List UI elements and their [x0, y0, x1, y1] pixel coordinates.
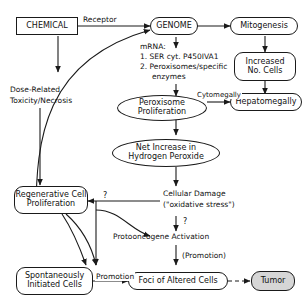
node-chemical-label: CHEMICAL — [26, 22, 67, 31]
node-foci-of-altered-cells[interactable]: Foci of Altered Cells — [128, 272, 228, 290]
node-regenerative-cell-proliferation[interactable]: Regenerative Cell Proliferation — [14, 186, 88, 214]
edge-label-cytomegally: Cytomegally — [196, 91, 242, 99]
mrna-item-2-continuation: enzymes — [152, 73, 186, 82]
node-spontaneous-line2: Initiated Cells — [27, 281, 82, 290]
dose-related-line2: Toxicity/Necrosis — [10, 97, 72, 106]
node-hepatomegally-label: Hepatomegally — [236, 98, 297, 107]
node-net-increase-line2: Hydrogen Peroxide — [128, 153, 204, 162]
node-spontaneously-initiated-cells[interactable]: Spontaneously Initiated Cells — [16, 267, 93, 295]
node-regenerative-line2: Proliferation — [27, 200, 75, 209]
promotion-parenthetical-text: (Promotion) — [182, 252, 226, 261]
node-genome-label: GENOME — [156, 22, 192, 31]
node-mitogenesis[interactable]: Mitogenesis — [230, 17, 298, 35]
edge-label-question-damage-to-regenerative: ? — [102, 191, 108, 200]
node-peroxisome-proliferation-line2: Proliferation — [138, 108, 186, 117]
node-increased-no-cells-line2: No. Cells — [248, 67, 283, 76]
node-tumor[interactable]: Tumor — [251, 271, 295, 291]
node-increased-no-cells[interactable]: Increased No. Cells — [234, 52, 296, 81]
edge-label-promotion: Promotion — [95, 272, 135, 281]
node-foci-label: Foci of Altered Cells — [138, 277, 217, 286]
cellular-damage-line1: Cellular Damage — [163, 190, 226, 199]
dose-related-line1: Dose-Related — [10, 86, 60, 95]
mrna-heading: mRNA: — [140, 43, 166, 52]
node-net-increase-hydrogen-peroxide[interactable]: Net Increase in Hydrogen Peroxide — [112, 139, 220, 167]
mrna-item-1: 1. SER cyt. P450IVA1 — [140, 53, 219, 62]
pathway-diagram: CHEMICAL GENOME Mitogenesis Increased No… — [0, 0, 306, 304]
node-chemical[interactable]: CHEMICAL — [16, 17, 78, 35]
edge-label-question-damage-to-protooncogene: ? — [182, 217, 188, 226]
edge-label-receptor: Receptor — [82, 15, 118, 24]
node-tumor-label: Tumor — [261, 277, 286, 286]
protooncogene-activation-text: Protooncogene Activation — [113, 233, 209, 242]
edge-regenerative-down-b — [66, 214, 96, 265]
node-genome[interactable]: GENOME — [150, 17, 198, 35]
mrna-item-2: 2. Peroxisomes/specific — [140, 63, 227, 72]
node-mitogenesis-label: Mitogenesis — [240, 22, 288, 31]
node-peroxisome-proliferation[interactable]: Peroxisome Proliferation — [117, 95, 207, 121]
cellular-damage-line2: ("oxidative stress") — [163, 201, 235, 210]
